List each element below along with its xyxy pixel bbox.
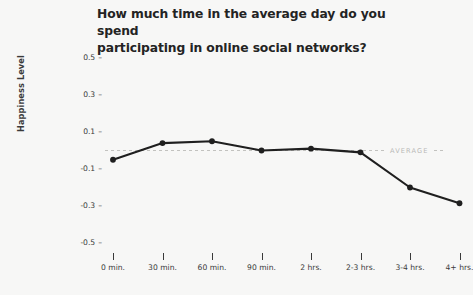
x-axis-tick-label: 2-3 hrs.	[346, 263, 375, 272]
y-axis-tick-value: 0.3	[83, 90, 95, 99]
data-point-marker[interactable]	[110, 157, 116, 163]
data-point-marker[interactable]	[407, 185, 413, 191]
y-axis-tick-value: -0.5	[80, 238, 95, 247]
x-axis-tick-mark	[410, 253, 411, 260]
x-axis-tick-mark	[163, 253, 164, 260]
y-axis-tick: 0.5–	[56, 53, 102, 62]
data-point-marker[interactable]	[259, 148, 265, 154]
x-axis-tick-mark	[212, 253, 213, 260]
x-axis-tick-label: 4+ hrs.	[446, 263, 473, 272]
x-axis-tick-label: 3-4 hrs.	[395, 263, 424, 272]
average-line-label: AVERAGE	[390, 147, 428, 155]
y-axis-tick: -0.5–	[56, 238, 102, 247]
x-axis-tick-mark	[311, 253, 312, 260]
y-axis-tick: -0.3–	[56, 201, 102, 210]
x-axis-tick-mark	[460, 253, 461, 260]
x-axis-tick-label: 30 min.	[148, 263, 177, 272]
data-point-marker[interactable]	[160, 140, 166, 146]
x-axis-tick-mark	[113, 253, 114, 260]
x-axis-tick-label: 60 min.	[198, 263, 227, 272]
y-axis-tick: 0.1–	[56, 127, 102, 136]
y-axis-tick-value: 0.1	[83, 127, 95, 136]
data-point-marker[interactable]	[209, 138, 215, 144]
data-point-marker[interactable]	[358, 149, 364, 155]
y-axis-tick-value: -0.3	[80, 201, 95, 210]
y-axis-tick-value: 0.5	[83, 53, 95, 62]
y-axis-tick: 0.3–	[56, 90, 102, 99]
x-axis-tick-mark	[262, 253, 263, 260]
y-axis-tick-labels: 0.5–0.3–0.1–-0.1–-0.3–-0.5–	[46, 0, 102, 295]
x-axis-tick-label: 0 min.	[101, 263, 125, 272]
y-axis-title: Happiness Level	[16, 32, 26, 132]
plot-area: AVERAGE	[100, 40, 445, 255]
data-point-marker[interactable]	[308, 146, 314, 152]
y-axis-tick-value: -0.1	[80, 164, 95, 173]
x-axis-tick-mark	[361, 253, 362, 260]
chart-title-line-1: How much time in the average day do you …	[97, 7, 386, 38]
y-axis-tick: -0.1–	[56, 164, 102, 173]
x-axis-tick-labels: 0 min.30 min.60 min.90 min.2 hrs.2-3 hrs…	[0, 253, 455, 293]
x-axis-tick-label: 2 hrs.	[300, 263, 322, 272]
data-point-marker[interactable]	[457, 200, 463, 206]
x-axis-tick-label: 90 min.	[247, 263, 276, 272]
